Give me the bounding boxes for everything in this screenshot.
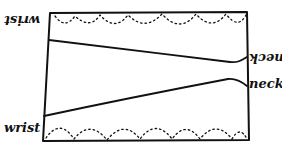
label-wrist-top: wrist	[4, 14, 40, 27]
label-neck-top: neck	[249, 52, 282, 65]
upper-edge-line	[49, 40, 247, 62]
pattern-sketch	[0, 0, 282, 151]
lower-edge-line	[44, 79, 247, 116]
outer-rectangle	[43, 12, 249, 141]
label-neck-bottom: neck	[249, 77, 282, 90]
label-wrist-bottom: wrist	[4, 121, 40, 134]
bottom-dotted-scallops	[46, 128, 247, 140]
top-dotted-scallops	[55, 14, 246, 24]
